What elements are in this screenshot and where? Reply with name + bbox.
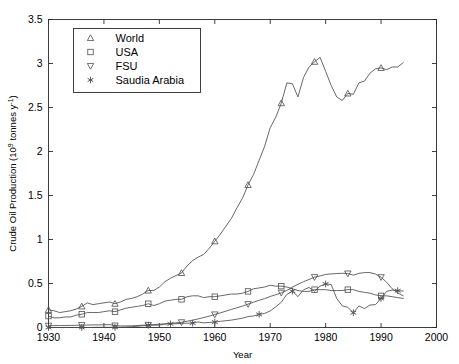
y-tick-label: 3 bbox=[37, 57, 43, 69]
x-tick-label: 1940 bbox=[92, 331, 116, 343]
y-tick-label: 0.5 bbox=[28, 277, 43, 289]
y-tick-label: 0 bbox=[37, 321, 43, 333]
legend-label-saudia-arabia: Saudia Arabia bbox=[116, 74, 185, 86]
y-tick-label: 1.5 bbox=[28, 189, 43, 201]
x-tick-label: 1960 bbox=[203, 331, 227, 343]
x-tick-label: 1970 bbox=[259, 331, 283, 343]
y-tick-label: 1 bbox=[37, 233, 43, 245]
chart-figure: 1930194019501960197019801990200000.511.5… bbox=[0, 0, 459, 364]
x-tick-label: 1980 bbox=[314, 331, 338, 343]
legend-label-fsu: FSU bbox=[116, 60, 138, 72]
y-tick-label: 2 bbox=[37, 145, 43, 157]
y-tick-label: 3.5 bbox=[28, 13, 43, 25]
x-tick-label: 1950 bbox=[148, 331, 172, 343]
chart-legend: WorldUSAFSUSaudia Arabia bbox=[74, 29, 201, 93]
x-tick-label: 2000 bbox=[425, 331, 449, 343]
crude-oil-production-line-chart: 1930194019501960197019801990200000.511.5… bbox=[0, 0, 459, 364]
x-axis-title: Year bbox=[233, 349, 252, 360]
series-line-saudia-arabia bbox=[49, 284, 404, 328]
legend-label-usa: USA bbox=[116, 46, 139, 58]
y-tick-label: 2.5 bbox=[28, 101, 43, 113]
x-tick-label: 1990 bbox=[369, 331, 393, 343]
series-line-fsu bbox=[49, 273, 404, 326]
legend-label-world: World bbox=[116, 32, 145, 44]
y-axis-title: Crude Oil Production (109 tonnes y-1) bbox=[7, 95, 19, 251]
series-line-usa bbox=[49, 285, 404, 318]
